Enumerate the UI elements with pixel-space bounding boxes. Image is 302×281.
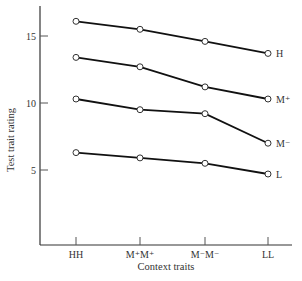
data-point — [137, 26, 143, 32]
y-axis-title: Test trait rating — [5, 107, 16, 172]
data-point — [265, 96, 271, 102]
series-line — [76, 153, 268, 174]
data-point — [265, 140, 271, 146]
series-L: L — [73, 150, 282, 180]
series-group: HM⁺M⁻L — [73, 18, 290, 180]
data-point — [265, 50, 271, 56]
line-chart: 51015 HHM⁺M⁺M⁻M⁻LL HM⁺M⁻L Context traits… — [0, 0, 302, 281]
axes — [40, 6, 292, 245]
series-label: M⁺ — [276, 94, 290, 105]
data-point — [202, 111, 208, 117]
data-point — [73, 54, 79, 60]
series-H: H — [73, 18, 283, 59]
data-point — [202, 84, 208, 90]
data-point — [202, 38, 208, 44]
series-M⁺: M⁺ — [73, 54, 290, 105]
x-tick-label: LL — [262, 249, 274, 260]
data-point — [73, 18, 79, 24]
series-label: L — [276, 169, 282, 180]
series-line — [76, 57, 268, 99]
y-ticks: 51015 — [26, 31, 48, 176]
x-axis-title: Context traits — [138, 261, 195, 272]
data-point — [137, 64, 143, 70]
x-ticks: HHM⁺M⁺M⁻M⁻LL — [69, 237, 274, 260]
x-tick-label: M⁻M⁻ — [191, 249, 219, 260]
series-line — [76, 99, 268, 143]
y-tick-label: 15 — [26, 31, 36, 42]
series-M⁻: M⁻ — [73, 96, 290, 149]
x-tick-label: M⁺M⁺ — [126, 249, 154, 260]
data-point — [73, 150, 79, 156]
data-point — [202, 160, 208, 166]
series-line — [76, 21, 268, 53]
data-point — [137, 107, 143, 113]
data-point — [265, 171, 271, 177]
data-point — [137, 155, 143, 161]
series-label: M⁻ — [276, 138, 290, 149]
y-tick-label: 10 — [26, 98, 36, 109]
y-tick-label: 5 — [31, 165, 36, 176]
data-point — [73, 96, 79, 102]
x-tick-label: HH — [69, 249, 83, 260]
series-label: H — [276, 48, 283, 59]
